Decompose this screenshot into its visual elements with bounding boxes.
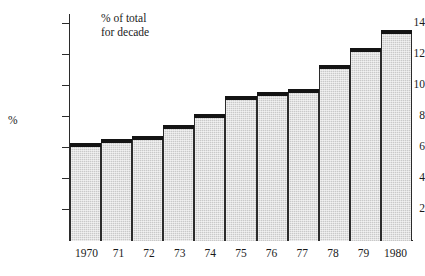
bar-cap bbox=[350, 48, 381, 52]
bar-cap bbox=[288, 89, 319, 93]
bar bbox=[225, 96, 256, 242]
bar-cap bbox=[101, 139, 132, 143]
x-axis-label: 78 bbox=[318, 246, 349, 260]
bar bbox=[101, 139, 132, 241]
bar bbox=[257, 92, 288, 241]
x-axis-label: 74 bbox=[195, 246, 226, 260]
bar-cap bbox=[163, 125, 194, 129]
y-tick-mark bbox=[62, 23, 69, 24]
bar bbox=[288, 89, 319, 241]
x-axis-label: 71 bbox=[103, 246, 134, 260]
x-axis-label: 1970 bbox=[70, 246, 103, 260]
y-tick-mark bbox=[62, 147, 69, 148]
x-axis-label: 73 bbox=[164, 246, 195, 260]
bar-cap bbox=[381, 30, 412, 34]
bar bbox=[163, 125, 194, 241]
y-tick-mark bbox=[62, 209, 69, 210]
bar bbox=[132, 136, 163, 241]
y-tick-mark bbox=[62, 54, 69, 55]
y-tick-mark bbox=[62, 178, 69, 179]
x-axis-label: 76 bbox=[256, 246, 287, 260]
bar-cap bbox=[319, 65, 350, 69]
bar-cap bbox=[257, 92, 288, 96]
x-axis-label: 1980 bbox=[379, 246, 412, 260]
y-tick-mark bbox=[62, 85, 69, 86]
x-axis-label: 77 bbox=[287, 246, 318, 260]
x-axis-label: 75 bbox=[226, 246, 257, 260]
bar-series bbox=[70, 14, 412, 241]
x-axis-label: 72 bbox=[134, 246, 165, 260]
x-axis-label: 79 bbox=[348, 246, 379, 260]
bar bbox=[350, 48, 381, 241]
bar-cap bbox=[225, 96, 256, 100]
bar bbox=[194, 114, 225, 241]
y-tick-mark bbox=[62, 116, 69, 117]
bar bbox=[381, 30, 412, 241]
bar-cap bbox=[70, 143, 101, 147]
y-axis-title: % bbox=[8, 114, 18, 126]
bar-cap bbox=[194, 114, 225, 118]
bar-chart: % of total for decade % 1412108642 19707… bbox=[0, 0, 425, 276]
bar bbox=[319, 65, 350, 241]
plot-area bbox=[70, 14, 412, 241]
bar bbox=[70, 143, 101, 241]
bar-cap bbox=[132, 136, 163, 140]
x-axis-labels: 19707172737475767778791980 bbox=[70, 246, 412, 260]
